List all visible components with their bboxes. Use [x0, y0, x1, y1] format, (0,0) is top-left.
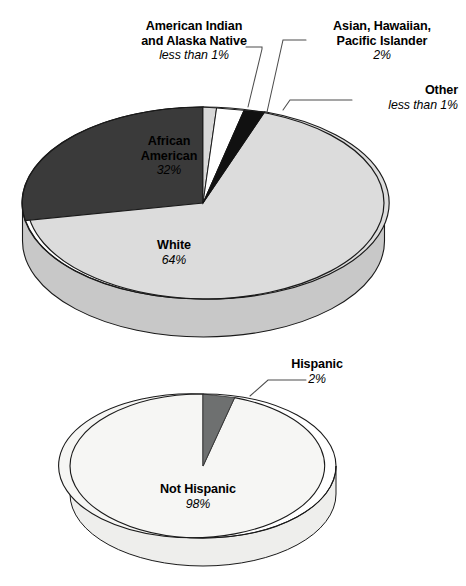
label-other-name: Other — [330, 83, 458, 98]
label-white-name: White — [122, 238, 226, 253]
label-not-hispanic-percent: 98% — [128, 497, 268, 512]
label-african-american-name-line2: American — [110, 149, 228, 164]
label-asian-name-line2: Pacific Islander — [306, 34, 458, 49]
label-white: White 64% — [122, 238, 226, 267]
label-hispanic: Hispanic 2% — [262, 357, 372, 386]
label-other: Other less than 1% — [330, 83, 458, 112]
slice-not-hispanic — [59, 394, 325, 538]
label-hispanic-percent: 2% — [262, 372, 372, 387]
label-african-american: African American 32% — [110, 134, 228, 178]
label-american-indian-name-line1: American Indian — [108, 19, 280, 34]
label-not-hispanic: Not Hispanic 98% — [128, 482, 268, 511]
label-american-indian-and-alaska-native: American Indian and Alaska Native less t… — [108, 19, 280, 63]
label-african-american-name-line1: African — [110, 134, 228, 149]
label-american-indian-name-line2: and Alaska Native — [108, 34, 280, 49]
pie-chart-figure: American Indian and Alaska Native less t… — [0, 0, 466, 586]
label-hispanic-name: Hispanic — [262, 357, 372, 372]
label-not-hispanic-name: Not Hispanic — [128, 482, 268, 497]
label-other-percent: less than 1% — [330, 98, 458, 113]
ethnicity-pie-chart — [59, 380, 336, 566]
label-american-indian-percent: less than 1% — [108, 48, 280, 63]
label-asian-hawaiian-pacific-islander: Asian, Hawaiian, Pacific Islander 2% — [306, 19, 458, 63]
label-white-percent: 64% — [122, 253, 226, 268]
label-african-american-percent: 32% — [110, 163, 228, 178]
label-asian-percent: 2% — [306, 48, 458, 63]
label-asian-name-line1: Asian, Hawaiian, — [306, 19, 458, 34]
